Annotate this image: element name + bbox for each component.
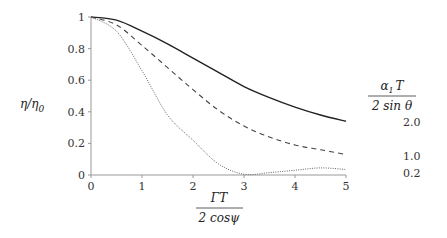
legend-entry-0-2: 0.2 — [403, 167, 421, 180]
labels: η/η0 ΓT 2 cosψ α1T 2 sin θ 2.0 1.0 0.2 — [20, 79, 421, 225]
x-tick-label: 1 — [139, 180, 146, 193]
legend-title-numerator: α1T — [380, 79, 404, 95]
curve-0-2 — [91, 17, 346, 175]
x-tick-label: 0 — [88, 180, 95, 193]
y-tick-label: 0.4 — [68, 106, 86, 119]
curves — [91, 17, 346, 175]
legend-entry-1-0: 1.0 — [403, 150, 421, 163]
y-axis-label: η/η0 — [20, 97, 44, 114]
legend-entry-2-0: 2.0 — [403, 116, 421, 129]
x-axis-label-numerator: ΓT — [210, 191, 228, 205]
y-tick-label: 1 — [78, 11, 85, 24]
curve-1-0 — [91, 17, 346, 154]
legend-title-denominator: 2 sin θ — [371, 99, 413, 113]
x-tick-label: 5 — [343, 180, 350, 193]
x-tick-label: 3 — [241, 180, 248, 193]
y-tick-label: 0.2 — [68, 137, 86, 150]
x-tick-label: 2 — [190, 180, 197, 193]
y-tick-label: 0.8 — [68, 43, 86, 56]
curve-2-0 — [91, 17, 346, 121]
x-axis-label-denominator: 2 cosψ — [198, 211, 241, 225]
chart: 01234500.20.40.60.81 η/η0 ΓT 2 cosψ α1T … — [0, 0, 447, 238]
x-tick-label: 4 — [292, 180, 299, 193]
y-tick-label: 0 — [78, 169, 85, 182]
y-tick-label: 0.6 — [68, 74, 86, 87]
